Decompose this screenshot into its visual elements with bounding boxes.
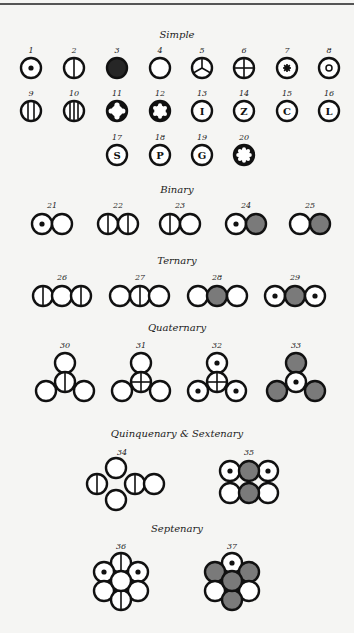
atom [125, 474, 145, 494]
symbol-number: 18 [155, 133, 165, 142]
element-symbol-16: L [319, 101, 339, 121]
atom-circle [267, 381, 287, 401]
cog-notch [109, 108, 114, 113]
compound-number: 35 [244, 448, 254, 457]
atom [267, 381, 287, 401]
cog-notch [153, 106, 157, 110]
symbol-number: 14 [239, 89, 249, 98]
atom [36, 381, 56, 401]
atom-circle [222, 571, 242, 591]
element-symbol-15: C [277, 101, 297, 121]
section-title-ternary: Ternary [157, 255, 197, 266]
atom-letter: C [283, 106, 291, 117]
atom [188, 381, 208, 401]
atom-circle [74, 381, 94, 401]
atom [227, 286, 247, 306]
atom [106, 458, 126, 478]
atom-circle [36, 381, 56, 401]
compound-number: 37 [227, 542, 238, 551]
symbol-number: 12 [155, 89, 165, 98]
atom [239, 483, 259, 503]
cog-notch [246, 157, 250, 161]
element-symbol-3 [107, 58, 127, 78]
element-symbol-20 [234, 145, 254, 165]
center-dot [101, 569, 106, 574]
atom [131, 353, 151, 373]
compound-37: 37 [205, 542, 259, 610]
atom-circle [131, 353, 151, 373]
atom [285, 286, 305, 306]
atom-circle [107, 58, 127, 78]
element-symbol-4 [150, 58, 170, 78]
cog-notch [153, 112, 157, 116]
element-symbol-9 [21, 101, 41, 121]
element-symbol-5 [192, 58, 212, 78]
symbol-number: 16 [324, 89, 334, 98]
atom-circle [52, 214, 72, 234]
compound-28: 28 [188, 273, 247, 306]
section-title-quinquenary-sextenary: Quinquenary & Sextenary [111, 428, 244, 439]
atom [52, 286, 72, 306]
symbol-number: 2 [70, 46, 76, 55]
cog-notch [120, 108, 125, 113]
center-dot [265, 468, 270, 473]
atom [110, 286, 130, 306]
atom-circle [150, 381, 170, 401]
compound-number: 21 [46, 201, 57, 210]
atom [286, 353, 306, 373]
atom-circle [110, 286, 130, 306]
element-symbol-1 [21, 58, 41, 78]
atom-circle [310, 214, 330, 234]
atom [226, 381, 246, 401]
atom [305, 286, 325, 306]
cog-notch [158, 115, 162, 119]
compound-number: 36 [116, 542, 126, 551]
atom [258, 483, 278, 503]
compound-number: 22 [112, 201, 123, 210]
atom [149, 286, 169, 306]
atom-circle [246, 214, 266, 234]
atom [111, 571, 131, 591]
compound-34: 34 [87, 448, 164, 510]
center-dot [229, 560, 234, 565]
element-symbol-13: I [192, 101, 212, 121]
atom [32, 214, 52, 234]
compound-number: 28 [211, 273, 222, 282]
atom-circle [150, 58, 170, 78]
section-title-septenary: Septenary [151, 523, 203, 534]
symbol-number: 1 [28, 46, 33, 55]
atom-circle [144, 474, 164, 494]
atom [310, 214, 330, 234]
atom [106, 490, 126, 510]
compound-26: 26 [33, 273, 91, 306]
compound-35: 35 [220, 448, 278, 503]
atom-circle [305, 381, 325, 401]
atom-circle [290, 214, 310, 234]
cog-notch [158, 103, 162, 107]
atom-letter: Z [240, 106, 247, 117]
section-title-binary: Binary [159, 184, 194, 195]
atom-letter: I [200, 106, 205, 117]
atom-circle [111, 571, 131, 591]
atom-circle [106, 458, 126, 478]
atom [55, 353, 75, 373]
compound-number: 26 [56, 273, 67, 282]
atom [131, 372, 151, 392]
element-symbol-18: P [150, 145, 170, 165]
atom [226, 214, 246, 234]
symbol-number: 3 [114, 46, 119, 55]
atom [207, 353, 227, 373]
atom-letter: G [198, 150, 207, 161]
atom-letter: P [156, 150, 164, 161]
symbol-number: 11 [112, 89, 122, 98]
cog-notch [246, 149, 250, 153]
atom [52, 214, 72, 234]
atom-circle [21, 101, 41, 121]
center-dot [28, 65, 33, 70]
section-title-quaternary: Quaternary [148, 322, 207, 333]
symbol-number: 8 [326, 46, 331, 55]
center-dot [272, 293, 277, 298]
element-symbol-8 [319, 58, 339, 78]
compound-number: 34 [117, 448, 127, 457]
atom [33, 286, 53, 306]
